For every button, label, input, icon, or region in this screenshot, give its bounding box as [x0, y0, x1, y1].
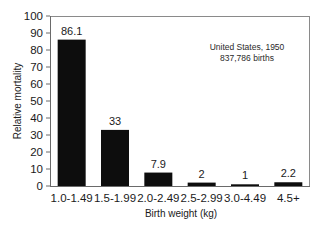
x-tick-label: 2.0-2.49	[137, 192, 179, 204]
y-axis-title: Relative mortality	[12, 63, 23, 140]
x-tick-label: 1.5-1.99	[94, 192, 136, 204]
bar-chart: 0102030405060708090100 86.1337.9212.2 1.…	[0, 0, 321, 227]
x-tick-label: 3.0-4.49	[224, 192, 266, 204]
y-tick-label: 70	[30, 61, 43, 73]
y-tick-label: 10	[30, 163, 43, 175]
x-tick-label: 2.5-2.99	[181, 192, 223, 204]
annotation-line-1: United States, 1950	[210, 42, 285, 52]
data-label: 2.2	[281, 167, 296, 179]
data-label: 86.1	[61, 25, 82, 37]
data-label: 33	[109, 115, 121, 127]
bar-3.0-4.49	[231, 184, 259, 186]
y-tick-label: 20	[30, 146, 43, 158]
x-axis-title: Birth weight (kg)	[145, 208, 217, 219]
y-tick-label: 50	[30, 95, 43, 107]
x-tick-label: 4.5+	[277, 192, 300, 204]
y-tick-label: 40	[30, 112, 43, 124]
bar-1.5-1.99	[101, 130, 129, 186]
x-tick-label: 1.0-1.49	[51, 192, 93, 204]
y-tick-label: 100	[24, 10, 43, 22]
annotation-line-2: 837,786 births	[220, 53, 274, 63]
y-tick-label: 80	[30, 44, 43, 56]
y-tick-label: 30	[30, 129, 43, 141]
bar-1.0-1.49	[58, 40, 86, 186]
y-tick-label: 90	[30, 27, 43, 39]
y-tick-label: 0	[37, 180, 43, 192]
bar-4.5+	[274, 182, 302, 186]
data-label: 1	[242, 169, 248, 181]
data-label: 7.9	[151, 158, 166, 170]
bar-2.0-2.49	[144, 173, 172, 186]
data-label: 2	[199, 168, 205, 180]
bar-2.5-2.99	[188, 183, 216, 186]
y-tick-label: 60	[30, 78, 43, 90]
